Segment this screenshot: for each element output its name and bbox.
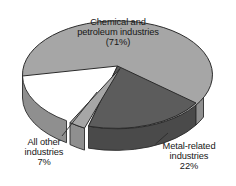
slice-label-metal-related-industries: Metal-related industries 22% [147, 141, 231, 171]
slice-label-all-other-industries: All other industries 7% [6, 137, 82, 167]
pie-chart-figure: Chemical and petroleum industries (71%) … [0, 0, 236, 186]
slice-label-chemical-and-petroleum: Chemical and petroleum industries (71%) [55, 17, 181, 47]
slice-label-chemical-line2: petroleum industries [55, 27, 181, 37]
slice-label-metal-line2: industries [147, 151, 231, 161]
slice-label-all-other-value: 7% [6, 157, 82, 167]
slice-label-metal-value: 22% [147, 161, 231, 171]
slice-label-all-other-line2: industries [6, 147, 82, 157]
chemical-slice-side-wall [23, 76, 67, 143]
slice-label-chemical-value: (71%) [55, 37, 181, 47]
slice-label-chemical-line1: Chemical and [55, 17, 181, 27]
slice-label-metal-line1: Metal-related [147, 141, 231, 151]
slice-label-all-other-line1: All other [6, 137, 82, 147]
